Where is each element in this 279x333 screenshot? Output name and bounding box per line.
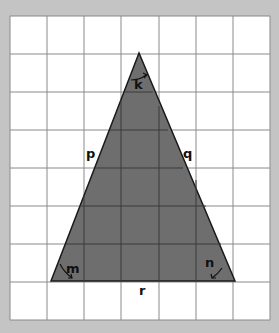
side-label-r: r	[139, 284, 145, 297]
angle-label-k: k	[134, 78, 143, 91]
angle-label-m: m	[66, 262, 80, 275]
side-label-p: p	[86, 147, 95, 160]
triangle-diagram: k m n p q r	[0, 0, 279, 333]
side-label-q: q	[183, 147, 192, 160]
angle-label-n: n	[205, 256, 214, 269]
